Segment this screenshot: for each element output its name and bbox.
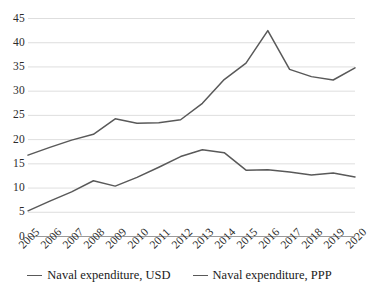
- x-tick-label: 2009: [104, 226, 129, 251]
- x-tick-label: 2018: [300, 226, 325, 251]
- legend-item-ppp[interactable]: Naval expenditure, PPP: [193, 269, 332, 282]
- x-tick-label: 2010: [126, 226, 151, 251]
- x-tick-label: 2006: [39, 226, 64, 251]
- legend-line-swatch-icon: [27, 275, 42, 276]
- x-tick-label: 2014: [213, 226, 238, 251]
- legend-line-swatch-icon: [193, 275, 208, 276]
- legend-item-usd[interactable]: Naval expenditure, USD: [27, 269, 170, 282]
- x-tick-label: 2017: [279, 226, 304, 251]
- x-tick-label: 2015: [235, 226, 260, 251]
- x-tick-label: 2007: [61, 226, 86, 251]
- x-tick-label: 2012: [170, 226, 195, 251]
- chart-legend: Naval expenditure, USDNaval expenditure,…: [0, 265, 359, 285]
- x-tick-label: 2011: [148, 226, 173, 251]
- x-tick-label: 2019: [322, 226, 347, 251]
- x-tick-label: 2005: [17, 226, 42, 251]
- legend-item-label: Naval expenditure, USD: [47, 269, 170, 282]
- legend-item-label: Naval expenditure, PPP: [213, 269, 332, 282]
- x-tick-label: 2013: [191, 226, 216, 251]
- x-tick-label: 2020: [344, 226, 369, 251]
- x-tick-label: 2008: [82, 226, 107, 251]
- x-tick-label: 2016: [257, 226, 282, 251]
